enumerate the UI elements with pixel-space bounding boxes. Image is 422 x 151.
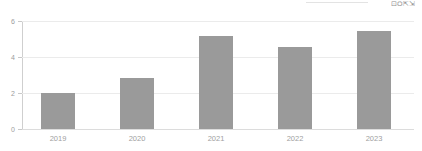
y-axis-line (22, 21, 23, 129)
bar-2021[interactable] (199, 36, 233, 129)
plot-area: 6 4 2 0 2019 2020 2021 2022 2023 (0, 10, 422, 151)
y-tick-label-4: 4 (0, 54, 15, 61)
gridline-0-baseline (22, 129, 414, 130)
bar-2022[interactable] (278, 47, 312, 129)
chart-toolbar-strip[interactable]: ⊡⛭⇱⇲ (300, 0, 422, 7)
y-tick-label-2: 2 (0, 90, 15, 97)
gridline-6 (22, 21, 414, 22)
chart-toolbar-icons[interactable]: ⊡⛭⇱⇲ (391, 0, 419, 6)
y-tick-label-6: 6 (0, 18, 15, 25)
y-tick-mark-6 (18, 21, 22, 22)
x-tick-label-2019: 2019 (28, 134, 88, 143)
bar-2023[interactable] (357, 31, 391, 129)
y-tick-mark-4 (18, 57, 22, 58)
bar-2020[interactable] (120, 78, 154, 129)
x-tick-label-2023: 2023 (344, 134, 404, 143)
x-tick-label-2021: 2021 (186, 134, 246, 143)
x-tick-label-2020: 2020 (107, 134, 167, 143)
y-tick-mark-2 (18, 93, 22, 94)
bar-chart-widget: ⊡⛭⇱⇲ 6 4 2 0 2019 2020 2021 2022 2023 (0, 0, 422, 151)
toolbar-divider (306, 2, 368, 3)
bar-2019[interactable] (41, 93, 75, 129)
x-tick-label-2022: 2022 (265, 134, 325, 143)
y-tick-mark-0 (18, 129, 22, 130)
y-tick-label-0: 0 (0, 126, 15, 133)
